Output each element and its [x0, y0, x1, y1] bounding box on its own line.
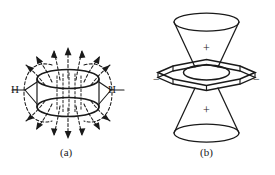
figure-container: H H + + − − (a) (b)	[0, 0, 275, 175]
field-lines-core	[57, 73, 81, 113]
minus-sign-right: −	[253, 73, 260, 85]
ring-body	[37, 79, 99, 107]
hydrogen-label-right: H	[108, 83, 116, 95]
plus-sign-top-cone: +	[203, 42, 210, 54]
panel-b-caption: (b)	[200, 146, 213, 158]
plus-sign-bottom-cone: +	[203, 104, 210, 116]
minus-sign-left: −	[153, 73, 160, 85]
aromatic-circle	[184, 65, 230, 80]
hydrogen-label-left: H	[11, 83, 19, 95]
panel-a-caption: (a)	[60, 146, 72, 158]
